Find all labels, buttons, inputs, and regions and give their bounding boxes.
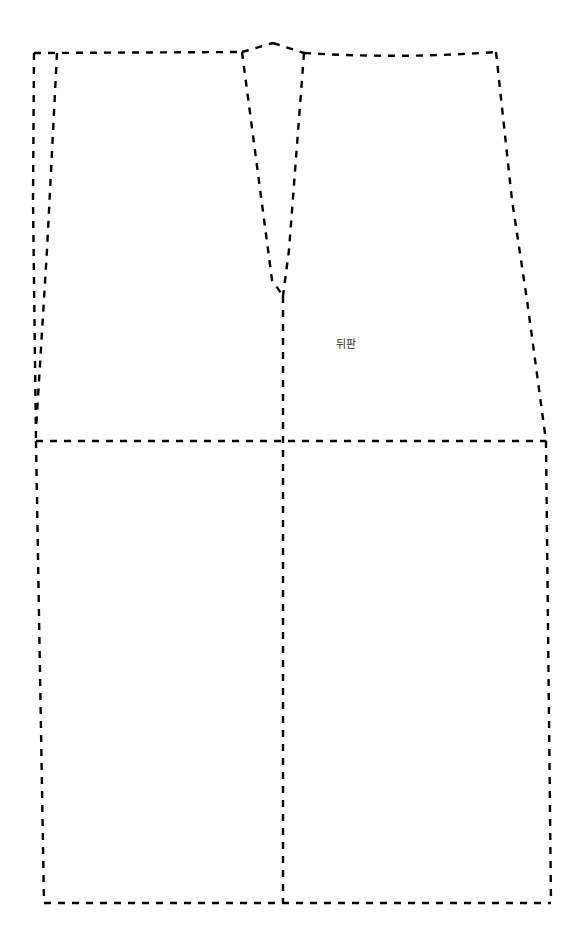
side-seam-right-lower-line bbox=[546, 441, 551, 903]
side-seam-left-lower-line bbox=[36, 441, 44, 903]
pattern-drawing-canvas bbox=[0, 0, 584, 938]
dart-leg-left-line bbox=[242, 52, 283, 296]
waistline-dart-peak-left-line bbox=[242, 43, 273, 52]
seam-allowance-left-line bbox=[36, 53, 57, 430]
dart-leg-right-line bbox=[283, 53, 304, 296]
waistline-right-line bbox=[304, 52, 496, 56]
waistline-dart-peak-right-line bbox=[273, 43, 304, 53]
pattern-line-group bbox=[33, 43, 551, 903]
side-seam-right-upper-line bbox=[496, 52, 546, 441]
pattern-sheet: 뒤판 bbox=[0, 0, 584, 938]
back-panel-label: 뒤판 bbox=[336, 339, 356, 350]
side-seam-left-upper-line bbox=[33, 53, 36, 441]
waistline-left-line bbox=[34, 52, 242, 53]
